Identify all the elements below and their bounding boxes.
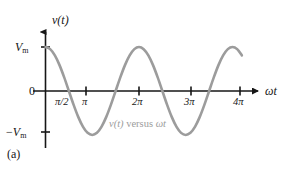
x-axis-label: ωt xyxy=(265,85,277,97)
x-tick-label-pi-over-2: π/2 xyxy=(55,97,68,108)
origin-label: 0 xyxy=(29,85,35,97)
minus-sign: − xyxy=(6,125,13,139)
y-tick-label-vm: Vm xyxy=(15,41,29,53)
curve-caption: v(t) versus ωt xyxy=(109,119,166,130)
x-tick-label-4pi: 4π xyxy=(233,97,244,108)
vm-subscript: m xyxy=(22,46,28,55)
y-axis-label: v(t) xyxy=(52,14,69,26)
negative-vm-subscript: m xyxy=(20,131,26,140)
waveform-plot xyxy=(0,0,295,170)
panel-label: (a) xyxy=(7,148,20,160)
x-tick-label-2pi: 2π xyxy=(132,97,143,108)
curve-caption-versus: versus xyxy=(124,118,156,129)
y-tick-label-negative-vm: −Vm xyxy=(6,126,26,138)
x-tick-label-3pi: 3π xyxy=(184,97,195,108)
curve-caption-signal: v(t) xyxy=(109,118,124,129)
figure-panel-a: v(t) ωt Vm 0 −Vm π/2 π 2π 3π 4π v(t) ver… xyxy=(0,0,295,170)
x-tick-label-pi: π xyxy=(82,97,87,108)
curve-caption-omega-t: ωt xyxy=(156,118,166,129)
